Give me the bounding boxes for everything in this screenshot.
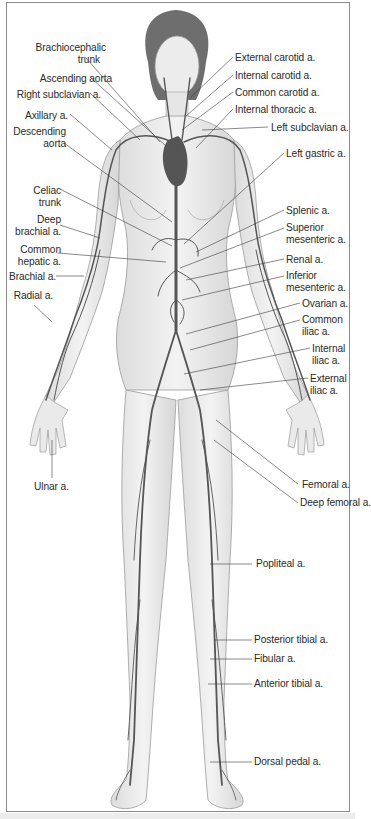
label-fibular-a: Fibular a. [254,653,295,665]
label-axillary-a: Axillary a. [8,110,68,122]
label-common-carotid-a: Common carotid a. [235,87,319,99]
label-radial-a: Radial a. [8,290,53,302]
right-leg-shape [111,390,176,809]
label-common-iliac-a: Commoniliac a. [302,314,343,337]
label-superior-mesenteric-a: Superiormesenteric a. [286,222,346,245]
label-left-subclavian-a: Left subclavian a. [271,122,349,134]
label-common-hepatic-a: Commonhepatic a. [8,244,61,267]
label-celiac-trunk: Celiactrunk [8,185,61,208]
label-brachiocephalic-trunk: Brachiocephalictrunk [8,42,106,65]
label-internal-iliac-a: Internaliliac a. [312,343,345,366]
label-renal-a: Renal a. [286,254,323,266]
label-deep-brachial-a: Deepbrachial a. [8,214,61,237]
label-brachial-a: Brachial a. [8,271,56,283]
left-hand-shape [286,395,324,455]
label-right-subclavian-a: Right subclavian a. [8,89,101,101]
right-hand-shape [30,395,68,455]
label-femoral-a: Femoral a. [302,479,350,491]
label-internal-carotid-a: Internal carotid a. [235,70,312,82]
label-inferior-mesenteric-a: Inferiormesenteric a. [286,270,346,293]
label-left-gastric-a: Left gastric a. [286,148,346,160]
label-ulnar-a: Ulnar a. [34,481,69,493]
label-deep-femoral-a: Deep femoral a. [300,497,371,509]
left-leg-shape [178,390,243,809]
head-shape [155,36,199,96]
label-external-carotid-a: External carotid a. [235,52,315,64]
label-anterior-tibial-a: Anterior tibial a. [254,678,323,690]
label-splenic-a: Splenic a. [286,205,330,217]
label-popliteal-a: Popliteal a. [256,558,305,570]
label-ascending-aorta: Ascending aorta [8,73,112,85]
label-descending-aorta: Descendingaorta [8,126,66,149]
label-external-iliac-a: Externaliliac a. [310,373,347,396]
label-posterior-tibial-a: Posterior tibial a. [254,634,328,646]
label-internal-thoracic-a: Internal thoracic a. [235,104,317,116]
label-ovarian-a: Ovarian a. [302,298,348,310]
label-dorsal-pedal-a: Dorsal pedal a. [254,756,321,768]
